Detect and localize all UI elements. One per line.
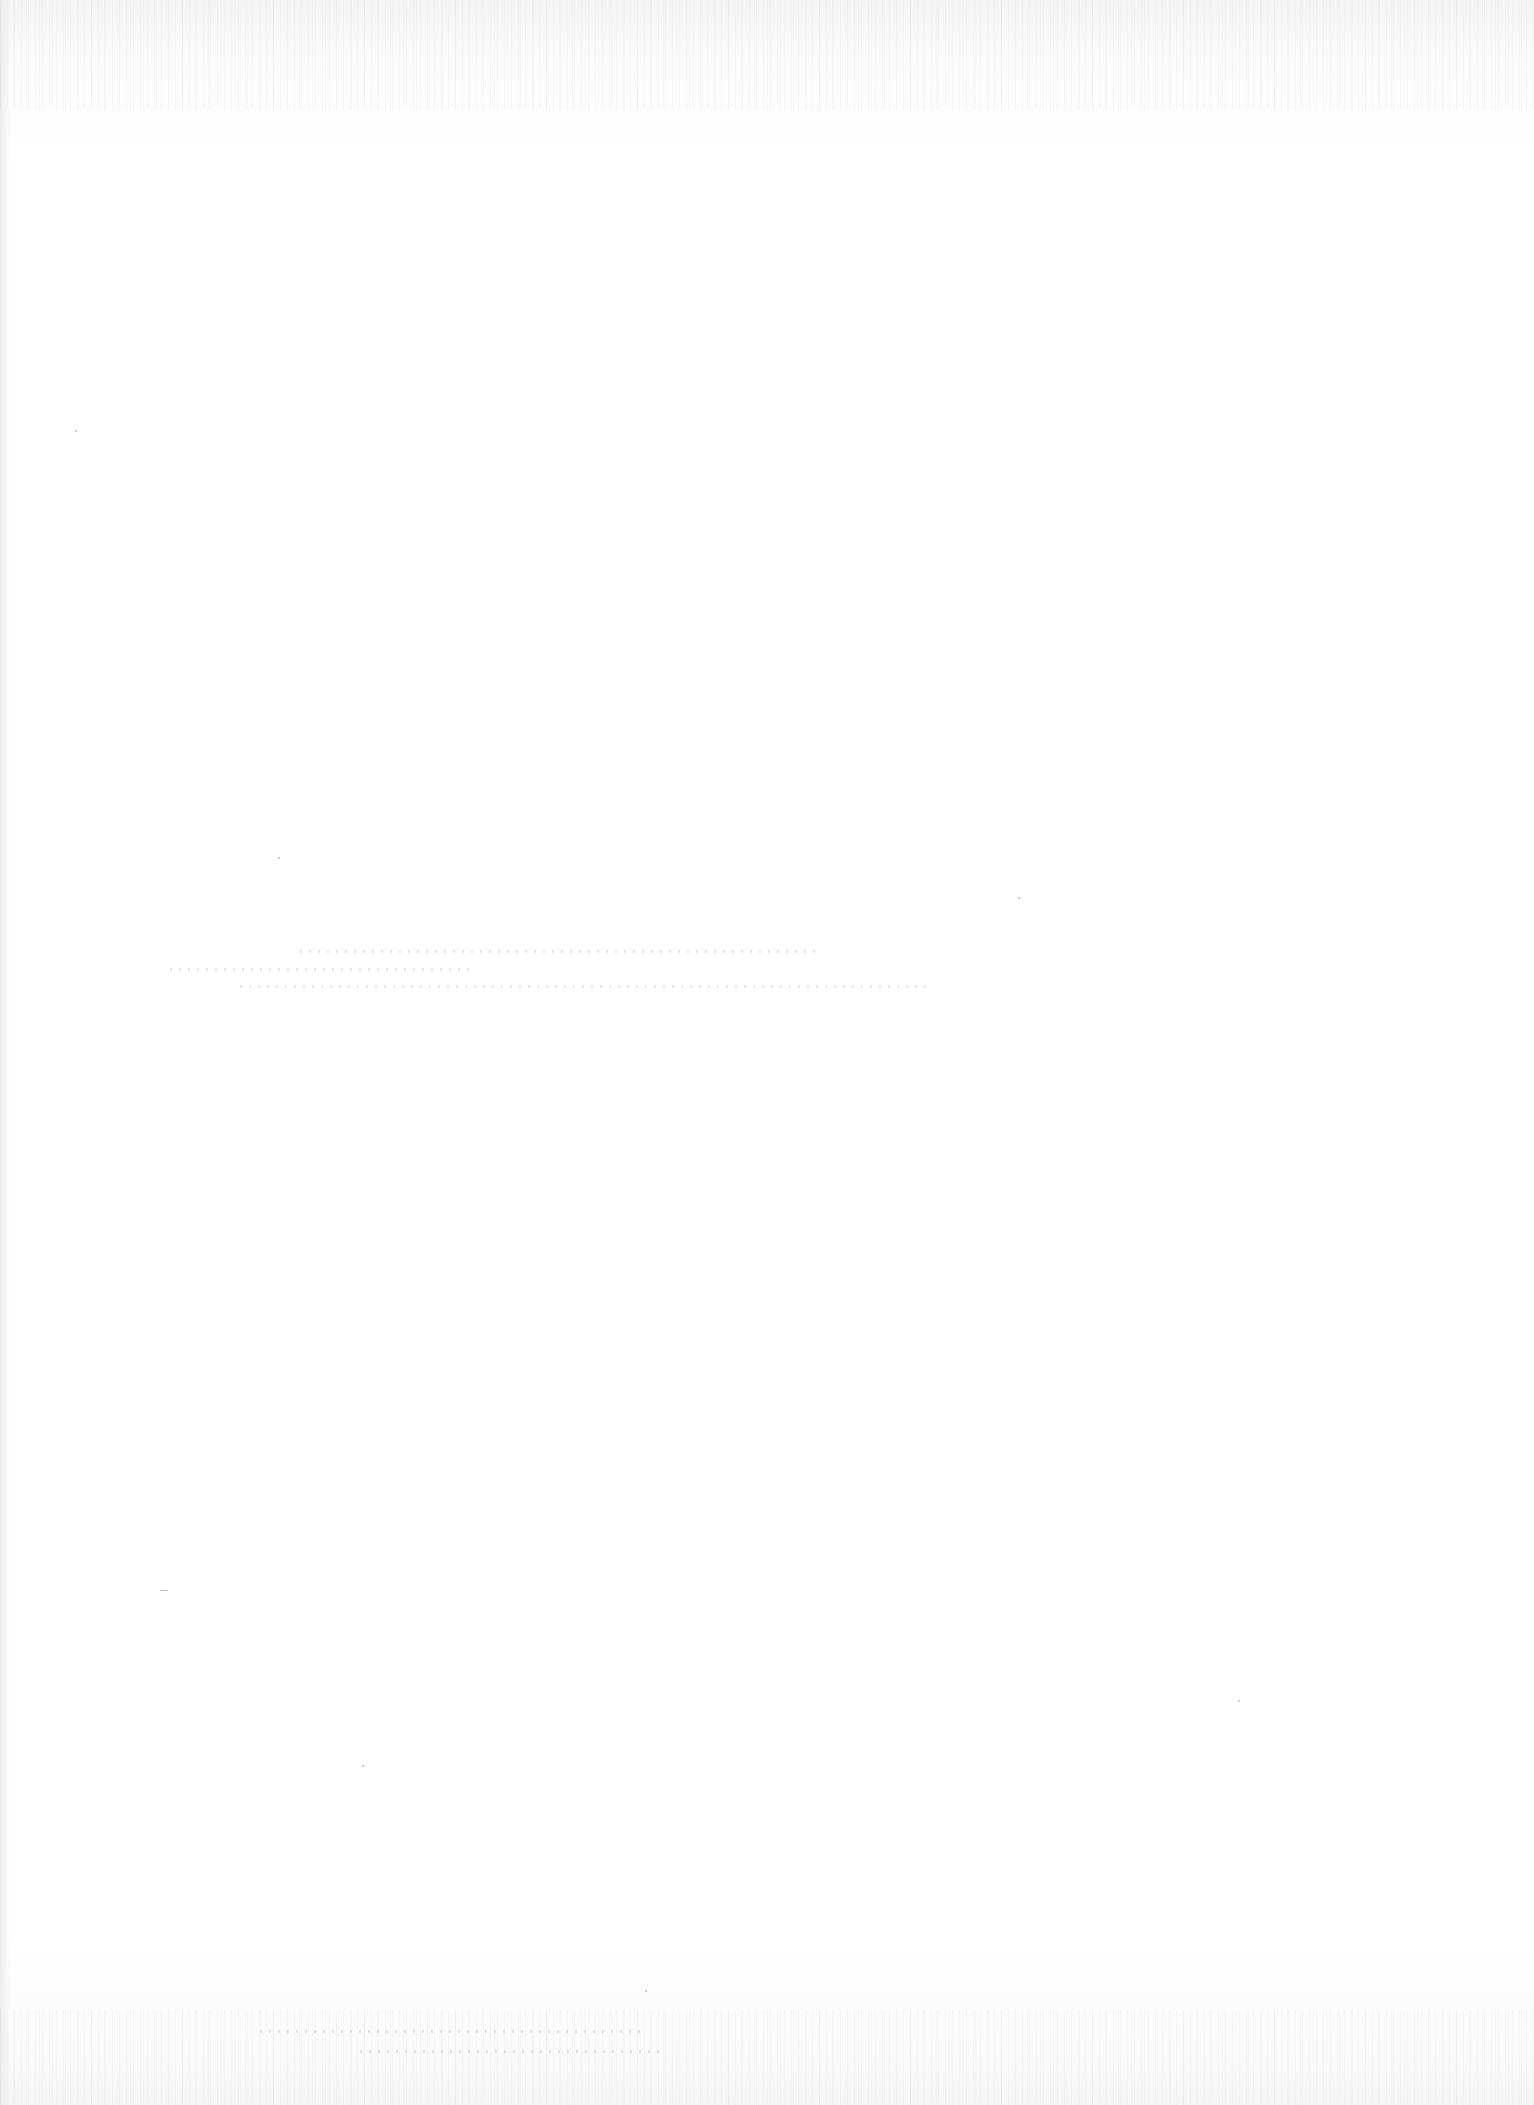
speck <box>160 1590 168 1591</box>
bleed-through-mark <box>360 2050 660 2053</box>
speck <box>1238 1700 1240 1702</box>
bleed-through-mark <box>260 2030 640 2033</box>
speck <box>645 1990 647 1992</box>
blank-page <box>0 0 1534 2105</box>
scan-noise-bottom <box>0 2010 1534 2105</box>
bleed-through-mark <box>240 985 930 988</box>
bleed-through-mark <box>300 950 820 953</box>
speck <box>75 430 77 432</box>
speck <box>278 857 280 859</box>
scan-edge-shadow <box>0 0 10 2105</box>
speck <box>362 1765 364 1767</box>
bleed-through-mark <box>170 968 470 971</box>
speck <box>1018 897 1020 899</box>
scan-noise-top <box>0 0 1534 110</box>
